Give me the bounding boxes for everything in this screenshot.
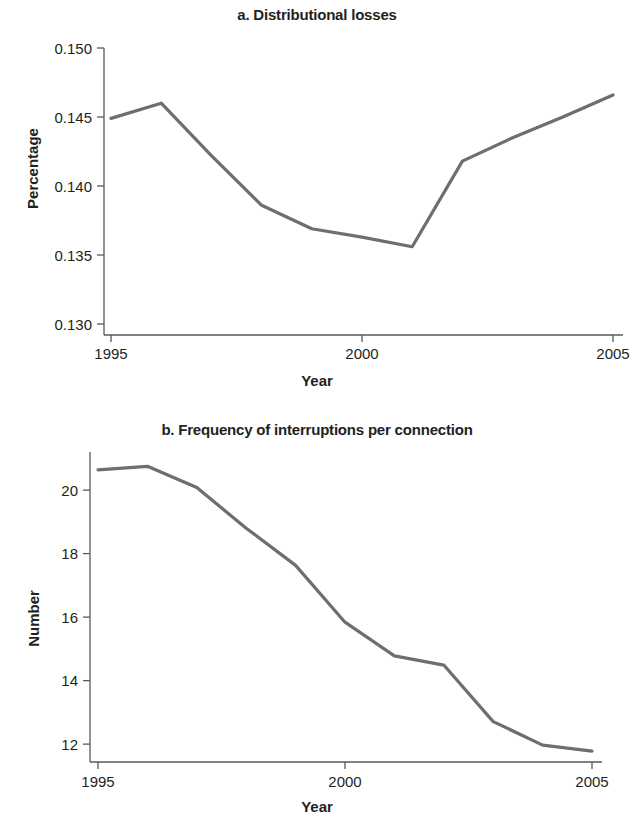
y-tick-label: 0.130 xyxy=(54,316,92,333)
chart-panel-a: a. Distributional losses Percentage Year… xyxy=(0,0,634,410)
y-tick-label: 12 xyxy=(61,736,78,753)
y-tick-label: 0.135 xyxy=(54,247,92,264)
x-tick-label: 2000 xyxy=(345,345,378,362)
y-tick-label: 18 xyxy=(61,545,78,562)
x-tick-label: 2005 xyxy=(596,345,629,362)
data-series-line xyxy=(111,95,613,247)
figure-container: a. Distributional losses Percentage Year… xyxy=(0,0,634,829)
x-tick-label: 1995 xyxy=(94,345,127,362)
y-tick-label: 16 xyxy=(61,609,78,626)
y-tick-label: 0.150 xyxy=(54,40,92,57)
y-tick-label: 0.145 xyxy=(54,109,92,126)
y-tick-label: 20 xyxy=(61,482,78,499)
data-series-line xyxy=(98,466,592,751)
y-tick-label: 0.140 xyxy=(54,178,92,195)
x-tick-label: 2005 xyxy=(575,773,608,790)
y-tick-label: 14 xyxy=(61,672,78,689)
chart-panel-b: b. Frequency of interruptions per connec… xyxy=(0,410,634,829)
panel-a-plot-area: 0.1300.1350.1400.1450.150199520002005 xyxy=(0,0,634,410)
x-tick-label: 2000 xyxy=(328,773,361,790)
x-tick-label: 1995 xyxy=(81,773,114,790)
panel-b-plot-area: 1214161820199520002005 xyxy=(0,410,634,829)
